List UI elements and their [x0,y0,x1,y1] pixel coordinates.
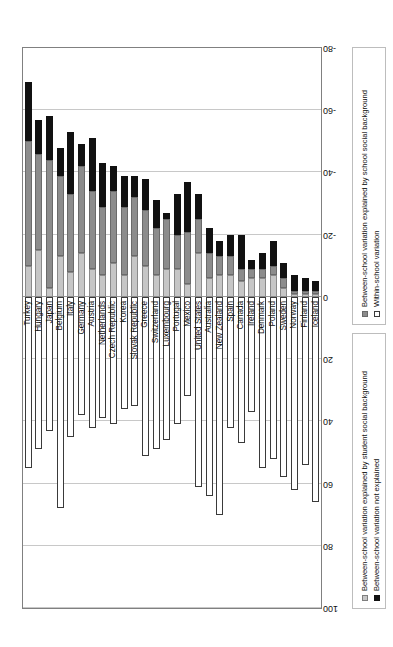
bar-segment-within-school [312,297,319,502]
bar-segment-school-background [131,197,138,256]
bar-segment-student-background [270,275,277,297]
bar-category-label: Australia [205,301,213,333]
bar-segment-student-background [312,294,319,297]
bar-segment-school-background [312,291,319,294]
bar-category-label: Sweden [280,301,288,331]
bar-segment-not-explained [216,241,223,257]
x-axis-tick-label: 60 [323,480,333,490]
bar-category-label: Slovak Republic [131,301,139,360]
x-axis-tick-label: 20 [323,355,333,365]
bar-category-label: Ireland [248,301,256,326]
bar-segment-student-background [25,266,32,297]
x-axis-tick-label: 0 [323,293,328,303]
bar-category-label: Germany [77,301,85,335]
bar-category-label: Portugal [173,301,181,332]
bar-segment-school-background [57,176,64,257]
bar-segment-school-background [110,191,117,263]
bar-segment-student-background [57,256,64,296]
x-axis-tick-label: -80 [323,44,336,54]
bar-segment-school-background [259,269,266,278]
bar-segment-student-background [99,275,106,297]
bar-segment-student-background [195,253,202,297]
bar-segment-not-explained [227,235,234,257]
bar-segment-school-background [216,256,223,275]
bar-category-label: Korea [120,301,128,323]
bar-category-label: Hungary [35,301,43,332]
bar-segment-student-background [291,294,298,297]
bar-segment-student-background [110,263,117,297]
bar-segment-not-explained [67,132,74,194]
bar-segment-student-background [46,288,53,297]
bar-segment-not-explained [248,260,255,269]
bar-segment-school-background [291,291,298,294]
bar-segment-school-background [78,166,85,253]
bar-group [25,48,32,608]
bar-segment-not-explained [312,281,319,290]
bar-group [302,48,309,608]
bar-segment-not-explained [280,263,287,279]
legend-group-left: Between-school variation explained by st… [352,333,386,609]
bar-group [142,48,149,608]
bar-category-label: Norway [290,301,298,329]
bar-segment-not-explained [78,144,85,166]
bar-segment-student-background [184,284,191,296]
legend-label: Between-school variation explained by st… [361,371,369,591]
bar-segment-school-background [25,141,32,265]
legend-swatch-icon [362,311,368,317]
bar-segment-school-background [67,194,74,272]
bar-segment-not-explained [131,176,138,198]
bar-category-label: Spain [226,301,234,322]
bar-category-label: Canada [237,301,245,330]
bar-segment-school-background [174,235,181,269]
bar-segment-student-background [302,294,309,297]
bar-category-label: Czech Republic [109,301,117,358]
bar-segment-not-explained [153,200,160,228]
bar-segment-within-school [67,297,74,437]
x-axis-tick-label: 100 [323,604,338,614]
bar-segment-school-background [227,256,234,275]
bar-segment-school-background [142,210,149,266]
bar-category-label: Denmark [258,301,266,334]
bar-group [312,48,319,608]
bar-category-label: Iceland [312,301,320,327]
bar-group [270,48,277,608]
bar-segment-student-background [216,275,223,297]
bar-segment-student-background [35,250,42,297]
bar-segment-student-background [174,269,181,297]
legend-swatch-icon [362,595,368,601]
bar-segment-student-background [227,275,234,297]
bar-segment-student-background [89,269,96,297]
bar-segment-not-explained [270,241,277,266]
bar-category-label: Poland [269,301,277,327]
bar-group [46,48,53,608]
bar-segment-not-explained [195,194,202,219]
bar-segment-not-explained [184,182,191,232]
bar-segment-not-explained [99,163,106,207]
bar-group [248,48,255,608]
bar-segment-not-explained [291,275,298,291]
legend-label: Within-school variation [373,231,381,307]
bar-segment-school-background [184,232,191,285]
bar-segment-school-background [270,266,277,275]
bar-category-label: Switzerland [152,301,160,343]
bar-category-label: Finland [301,301,309,328]
bar-segment-school-background [35,154,42,250]
bar-segment-school-background [121,207,128,275]
bar-segment-student-background [121,275,128,297]
bar-segment-school-background [46,160,53,288]
plot-area: TurkeyHungaryJapanBelgiumItalyGermanyAus… [22,47,322,609]
bar-segment-not-explained [206,228,213,253]
bar-group [89,48,96,608]
x-axis-tick-label: -40 [323,168,336,178]
bar-category-label: Japan [45,301,53,323]
bar-segment-school-background [280,278,287,287]
bar-category-label: Austria [88,301,96,326]
bar-segment-not-explained [163,213,170,219]
bar-segment-not-explained [89,138,96,191]
bar-segment-not-explained [121,176,128,207]
bar-segment-student-background [78,253,85,297]
bar-category-label: Italy [67,301,75,316]
bar-segment-school-background [99,207,106,275]
bar-segment-not-explained [35,120,42,154]
bar-segment-student-background [163,269,170,297]
